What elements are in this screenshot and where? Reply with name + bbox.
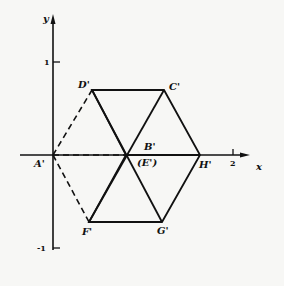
y-axis [51, 14, 61, 250]
y-tick-label-1: 1 [44, 57, 50, 67]
y-axis-label: y [42, 13, 50, 24]
point-label-e: (E') [137, 157, 157, 168]
dashed-line-a-d [53, 90, 92, 155]
x-axis-arrow-icon [240, 153, 250, 158]
point-label-a: A' [33, 158, 45, 169]
y-tick-label-neg1: -1 [37, 243, 46, 253]
x-tick-label-2: 2 [230, 158, 236, 168]
x-axis-label: x [255, 161, 263, 172]
dashed-lines [53, 90, 126, 222]
hexagon [89, 90, 200, 222]
diagonals [89, 90, 200, 222]
point-label-c: C' [169, 81, 180, 92]
diagonal-c-f [89, 90, 164, 222]
point-label-h: H' [198, 159, 212, 170]
hexagon-transformation-diagram: y x 1 -1 2 A' D' C' B' (E') H' F' G' [0, 0, 284, 286]
point-label-d: D' [77, 79, 90, 90]
point-label-b: B' [143, 141, 156, 152]
y-axis-arrow-icon [51, 14, 56, 24]
point-label-g: G' [157, 225, 169, 236]
dashed-line-a-f [53, 155, 89, 222]
point-label-f: F' [81, 226, 92, 237]
